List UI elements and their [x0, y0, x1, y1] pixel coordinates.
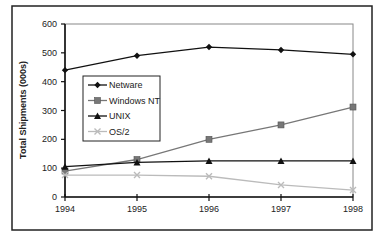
legend-label: Netware: [109, 80, 143, 90]
y-tick-label: 500: [42, 48, 57, 58]
y-tick-label: 100: [42, 163, 57, 173]
y-tick-label: 200: [42, 134, 57, 144]
x-tick-label: 1996: [199, 204, 219, 214]
y-axis-title: Total Shipments (000s): [18, 61, 28, 159]
square-marker-icon: [206, 136, 212, 142]
square-marker-icon: [95, 98, 101, 104]
x-tick-label: 1998: [343, 204, 363, 214]
y-tick-label: 300: [42, 106, 57, 116]
y-tick-label: 0: [52, 192, 57, 202]
x-tick-label: 1994: [55, 204, 75, 214]
legend-label: Windows NT: [109, 96, 161, 106]
x-tick-label: 1995: [127, 204, 147, 214]
x-tick-label: 1997: [271, 204, 291, 214]
y-tick-label: 600: [42, 19, 57, 29]
y-tick-label: 400: [42, 77, 57, 87]
square-marker-icon: [350, 104, 356, 110]
legend-label: UNIX: [109, 111, 131, 121]
line-chart: 0100200300400500600 19941995199619971998…: [0, 0, 380, 245]
legend: NetwareWindows NTUNIXOS/2: [83, 76, 161, 141]
legend-label: OS/2: [109, 127, 130, 137]
square-marker-icon: [278, 122, 284, 128]
